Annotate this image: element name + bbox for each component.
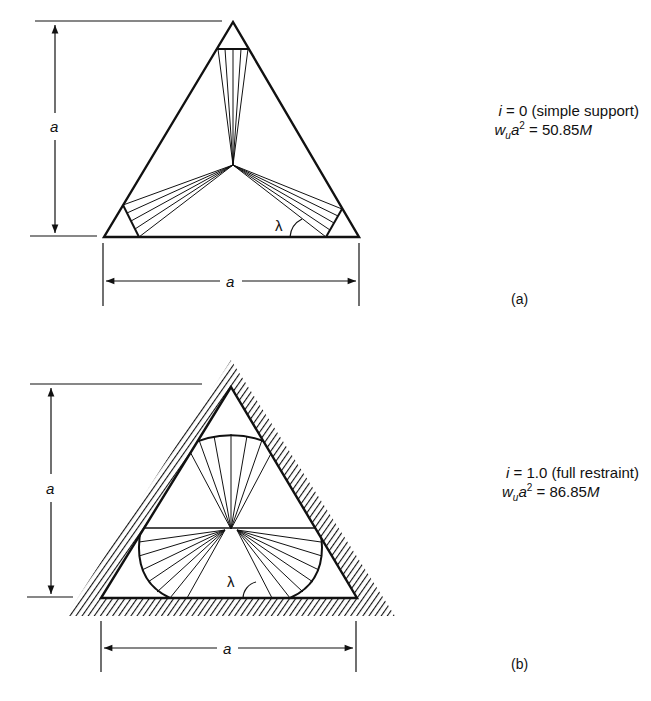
moment-eq-a: wua2 = 50.85M	[495, 120, 640, 142]
figure-b-slab	[27, 360, 395, 672]
condition-a: i = 0 (simple support)	[499, 102, 640, 120]
condition-b: i = 1.0 (full restraint)	[506, 464, 639, 482]
caption-b: (b)	[511, 656, 528, 672]
dim-vertical-label-a: a	[47, 119, 61, 134]
dim-horizontal-label-b: a	[220, 641, 234, 656]
moment-eq-b: wua2 = 86.85M	[502, 482, 639, 504]
angle-label-b: λ	[227, 574, 235, 589]
figure-a-slab	[30, 21, 359, 306]
caption-a: (a)	[511, 291, 528, 307]
angle-label-a: λ	[275, 218, 283, 233]
equation-block-a: i = 0 (simple support) wua2 = 50.85M	[499, 102, 640, 142]
equation-block-b: i = 1.0 (full restraint) wua2 = 86.85M	[506, 464, 639, 504]
dim-horizontal-label-a: a	[223, 274, 237, 289]
dim-vertical-label-b: a	[43, 481, 57, 496]
